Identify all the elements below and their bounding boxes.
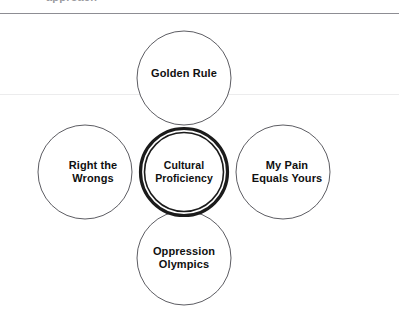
cultural-proficiency-diagram: [0, 0, 399, 323]
hub-circle-inner-ring: [145, 133, 224, 212]
petal-circle-my-pain-equals-yours: [236, 125, 330, 219]
petal-circle-golden-rule: [137, 31, 231, 125]
petal-circle-right-the-wrongs: [38, 125, 132, 219]
petal-circle-oppression-olympics: [137, 211, 231, 305]
diagram-page: approach Golden Rule My Pain Equals Your…: [0, 0, 399, 323]
